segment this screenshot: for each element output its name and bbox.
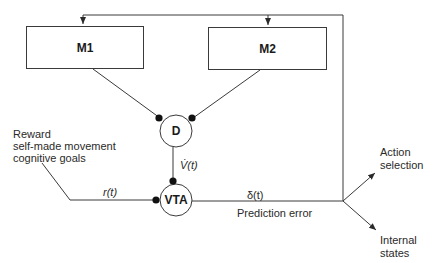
reward-input-line (42, 163, 156, 200)
m1-label: M1 (26, 41, 144, 55)
d-label: D (160, 124, 192, 138)
synapse-m1-d (155, 114, 162, 121)
prediction-error-label: Prediction error (237, 207, 312, 219)
reward-label-3: cognitive goals (13, 152, 86, 164)
r-label: r(t) (103, 186, 117, 198)
m1-to-d (93, 69, 160, 118)
reward-label-2: self-made movement (13, 140, 116, 152)
internal-arrow (343, 201, 376, 230)
diagram-canvas (0, 0, 433, 263)
action-arrow (343, 173, 375, 201)
synapse-d-vta (169, 177, 176, 184)
action-label-2: selection (380, 159, 423, 171)
internal-label-2: states (380, 247, 409, 259)
v-dot-label: V̇(t) (180, 159, 198, 171)
m2-label: M2 (208, 42, 327, 56)
m2-to-d (193, 70, 260, 118)
vta-label: VTA (158, 193, 194, 207)
synapse-m2-d (188, 114, 195, 121)
reward-label-1: Reward (13, 128, 51, 140)
delta-label: δ(t) (247, 189, 264, 201)
action-label-1: Action (380, 146, 411, 158)
internal-label-1: Internal (380, 234, 417, 246)
